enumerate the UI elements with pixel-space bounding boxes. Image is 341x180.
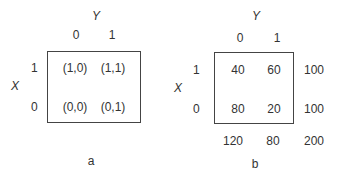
col-label: 0 xyxy=(73,29,80,41)
row-label: 0 xyxy=(193,103,200,115)
cell: (0,1) xyxy=(101,101,126,113)
cell: (1,0) xyxy=(63,62,88,74)
col-label: 0 xyxy=(237,32,244,44)
row-label: 1 xyxy=(31,62,38,74)
caption: b xyxy=(252,158,259,170)
col-total: 80 xyxy=(266,135,279,147)
cell: 60 xyxy=(267,64,280,76)
col-variable-label: Y xyxy=(252,10,260,22)
row-label: 0 xyxy=(31,101,38,113)
row-variable-label: X xyxy=(11,80,19,92)
row-variable-label: X xyxy=(174,82,182,94)
cell: (0,0) xyxy=(63,101,88,113)
caption: a xyxy=(88,155,95,167)
row-label: 1 xyxy=(193,64,200,76)
cell: 40 xyxy=(231,64,244,76)
cell: 80 xyxy=(231,103,244,115)
grid-box xyxy=(47,51,141,123)
row-total: 100 xyxy=(304,103,324,115)
row-total: 100 xyxy=(304,64,324,76)
grid-box xyxy=(214,52,294,124)
col-label: 1 xyxy=(274,32,281,44)
cell: 20 xyxy=(267,103,280,115)
col-variable-label: Y xyxy=(92,10,100,22)
col-label: 1 xyxy=(109,29,116,41)
cell: (1,1) xyxy=(101,62,126,74)
col-total: 120 xyxy=(223,135,243,147)
grand-total: 200 xyxy=(304,135,324,147)
